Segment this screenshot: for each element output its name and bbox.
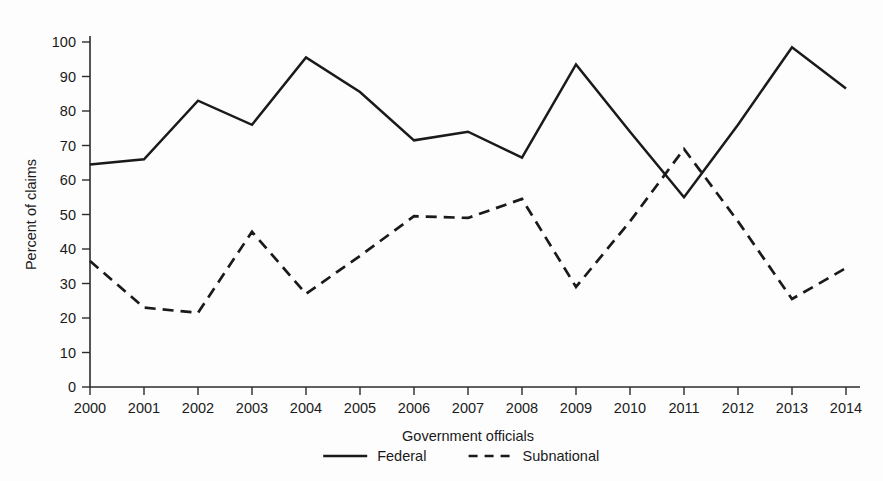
y-tick-label: 40: [60, 241, 76, 257]
x-tick-label: 2005: [344, 400, 376, 416]
x-axis-ticks: 2000200120022003200420052006200720082009…: [74, 387, 862, 416]
y-axis-title: Percent of claims: [23, 159, 39, 270]
y-tick-label: 100: [52, 34, 76, 50]
y-tick-label: 0: [68, 379, 76, 395]
y-tick-label: 30: [60, 276, 76, 292]
x-tick-label: 2000: [74, 400, 106, 416]
x-tick-label: 2003: [236, 400, 268, 416]
x-tick-label: 2004: [290, 400, 322, 416]
chart-figure: 0102030405060708090100 20002001200220032…: [0, 0, 883, 481]
x-tick-label: 2012: [722, 400, 754, 416]
x-tick-label: 2014: [830, 400, 862, 416]
y-tick-label: 50: [60, 207, 76, 223]
x-axis-title: Government officials: [402, 428, 534, 444]
x-tick-label: 2010: [614, 400, 646, 416]
x-tick-label: 2009: [560, 400, 592, 416]
y-axis-ticks: 0102030405060708090100: [52, 34, 90, 395]
line-chart-canvas: 0102030405060708090100 20002001200220032…: [0, 0, 883, 481]
data-series-group: [90, 47, 846, 313]
y-tick-label: 80: [60, 103, 76, 119]
y-tick-label: 20: [60, 310, 76, 326]
y-tick-label: 10: [60, 345, 76, 361]
series-line-federal: [90, 47, 846, 197]
x-tick-label: 2008: [506, 400, 538, 416]
series-line-subnational: [90, 149, 846, 313]
x-tick-label: 2006: [398, 400, 430, 416]
legend-label-subnational[interactable]: Subnational: [523, 448, 600, 464]
legend-label-federal[interactable]: Federal: [377, 448, 426, 464]
y-tick-label: 60: [60, 172, 76, 188]
x-tick-label: 2013: [776, 400, 808, 416]
x-tick-label: 2007: [452, 400, 484, 416]
y-tick-label: 90: [60, 69, 76, 85]
x-tick-label: 2001: [128, 400, 160, 416]
chart-legend: FederalSubnational: [323, 448, 599, 464]
y-tick-label: 70: [60, 138, 76, 154]
x-tick-label: 2011: [668, 400, 699, 416]
x-tick-label: 2002: [182, 400, 214, 416]
